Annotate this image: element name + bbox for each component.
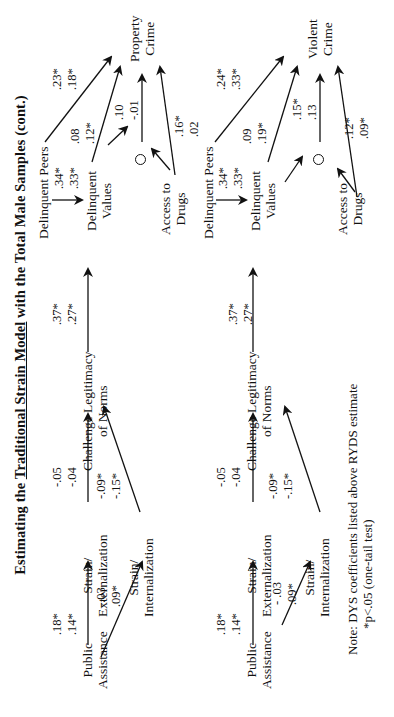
coef-interaction-crime: .15* .13 [290, 98, 319, 120]
coef-pa-ext: .18* .14* [50, 613, 79, 635]
coef-drugs-crime: .16* .02 [172, 115, 201, 137]
coef-values-crime: .08 .12* [68, 122, 97, 144]
coef-ryds: -.04 [229, 467, 244, 487]
coef-ryds: .27* [65, 303, 80, 325]
coef-ryds: .33* [229, 68, 244, 90]
node-label: Strain/ [244, 535, 259, 617]
coef-dys: .34* [52, 167, 67, 189]
coef-dys: -.09* [266, 473, 281, 499]
coef-ext-challenge: -.05 -.04 [214, 467, 243, 487]
node-property-crime: Property Crime [127, 16, 157, 63]
node-challenge-norms: Challenge Legitimacy of Norms [244, 351, 274, 471]
note-text: Note: DYS coefficients listed above RYDS… [345, 384, 360, 655]
figure-note: Note: DYS coefficients listed above RYDS… [345, 384, 375, 655]
coef-ryds: .18* [65, 68, 80, 90]
node-label: Challenge Legitimacy [244, 351, 259, 471]
coef-int-challenge: -.09* -.15* [266, 473, 295, 499]
coef-dys: .18* [50, 613, 65, 635]
node-challenge-norms: Challenge Legitimacy of Norms [80, 351, 110, 471]
node-label: Public [80, 631, 95, 689]
node-label: of Norms [259, 351, 274, 471]
interaction-node-circle [135, 154, 146, 165]
coef-values-crime: .09 .19* [240, 122, 269, 144]
node-label: Drugs [173, 183, 188, 235]
node-public-assistance: Public Assistance [80, 631, 110, 689]
node-label: Internalization [141, 538, 156, 617]
node-label: Drugs [350, 183, 365, 235]
coef-dys: -.05 [214, 467, 229, 487]
coef-challenge-values: .37* .27* [226, 303, 255, 325]
coef-ext-challenge: -.05 -.04 [50, 467, 79, 487]
coef-ryds: .09* [285, 582, 300, 605]
interaction-node-circle [313, 154, 324, 165]
node-label: Violent [305, 19, 320, 59]
coef-dys: -.09* [94, 473, 109, 499]
coef-ryds: .09* [357, 117, 372, 139]
coef-dys: .09 [240, 122, 255, 144]
node-label: Values [99, 171, 114, 231]
node-violent-crime: Violent Crime [305, 19, 335, 59]
coef-dys: .37* [226, 303, 241, 325]
coef-peers-crime: .23* .18* [50, 68, 79, 90]
coef-peers-crime: .24* .33* [214, 68, 243, 90]
node-label: Property [127, 16, 142, 63]
coef-dys: .24* [214, 68, 229, 90]
node-label: Access to [335, 183, 350, 235]
coef-dys: - .03 [270, 582, 285, 605]
coef-dys: .16* [172, 115, 187, 137]
coef-int-challenge: -.09* -.15* [94, 473, 123, 499]
node-label: Access to [158, 183, 173, 235]
node-delinquent-peers: Delinquent Peers [36, 146, 51, 239]
node-label: Delinquent Peers [201, 146, 216, 239]
coef-interaction-crime: .10 -.01 [112, 100, 141, 120]
coef-ryds: -.15* [109, 473, 124, 499]
node-label: Strain/ [80, 535, 95, 617]
coef-dys: -.03 [94, 585, 109, 607]
node-label: Assistance [95, 631, 110, 689]
node-label: Public [244, 631, 259, 689]
coef-dys: .34* [216, 167, 231, 189]
coef-ryds: .13 [305, 98, 320, 120]
coef-ryds: .12* [83, 122, 98, 144]
coef-ryds: .09* [109, 585, 124, 607]
coef-ryds: .14* [229, 613, 244, 635]
coef-ryds: -.15* [281, 473, 296, 499]
node-public-assistance: Public Assistance [244, 631, 274, 689]
coef-peers-values: .34* .33* [216, 167, 245, 189]
path-arrows [0, 0, 394, 717]
node-label: Crime [142, 16, 157, 63]
coef-ryds: .33* [231, 167, 246, 189]
coef-ryds: .19* [255, 122, 270, 144]
node-label: Assistance [259, 631, 274, 689]
coef-pa-ext: .18* .14* [214, 613, 243, 635]
coef-dys: .23* [50, 68, 65, 90]
coef-peers-values: .34* .33* [52, 167, 81, 189]
node-delinquent-values: Delinquent Values [84, 171, 114, 231]
coef-ryds: .33* [67, 167, 82, 189]
coef-dys: .37* [50, 303, 65, 325]
diagram-page: Estimating the Traditional Strain Model … [0, 0, 394, 717]
coef-dys: .18* [214, 613, 229, 635]
node-strain-internalization: Strain/ Internalization [126, 538, 156, 617]
node-access-drugs: Access to Drugs [335, 183, 365, 235]
coef-dys: -.05 [50, 467, 65, 487]
coef-dys: .15* [290, 98, 305, 120]
coef-drugs-crime: .12* .09* [342, 117, 371, 139]
coef-challenge-values: .37* .27* [50, 303, 79, 325]
coef-ryds: -.04 [65, 467, 80, 487]
coef-pa-int: - .03 .09* [270, 582, 299, 605]
significance-note: *p<.05 (one-tail test) [360, 384, 375, 655]
node-label: Crime [320, 19, 335, 59]
node-strain-internalization: Strain/ Internalization [302, 538, 332, 617]
coef-dys: .10 [112, 100, 127, 120]
node-label: Internalization [317, 538, 332, 617]
coef-ryds: -.01 [127, 100, 142, 120]
node-label: Strain/ [302, 538, 317, 617]
node-label: Strain/ [126, 538, 141, 617]
node-delinquent-peers: Delinquent Peers [201, 146, 216, 239]
node-label: of Norms [95, 351, 110, 471]
coef-ryds: .02 [187, 115, 202, 137]
node-access-drugs: Access to Drugs [158, 183, 188, 235]
coef-ryds: .27* [241, 303, 256, 325]
node-label: Values [263, 171, 278, 231]
